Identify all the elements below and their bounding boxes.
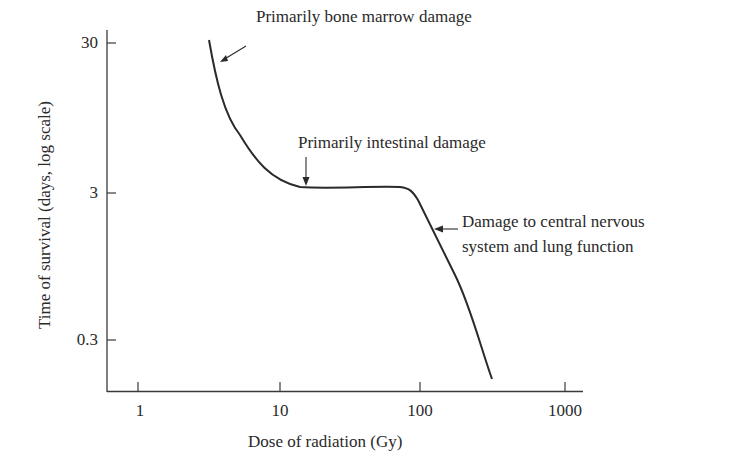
annotation-cns-line1: Damage to central nervous [462,212,645,232]
x-tick-label-10: 10 [250,401,310,421]
y-tick-label-3: 3 [58,183,98,203]
x-tick-label-1: 1 [110,401,170,421]
x-tick-label-1000: 1000 [535,401,595,421]
chart-plot-area [0,0,730,467]
annotation-bone-marrow: Primarily bone marrow damage [256,7,472,27]
survival-curve [209,40,492,379]
survival-vs-dose-chart: 30 3 0.3 1 10 100 1000 Dose of radiation… [0,0,730,467]
x-tick-label-100: 100 [390,401,450,421]
y-tick-label-30: 30 [58,33,98,53]
annotation-intestinal: Primarily intestinal damage [298,133,486,153]
y-tick-label-0.3: 0.3 [58,330,98,350]
y-axis-title: Time of survival (days, log scale) [35,101,55,329]
annotation-cns-line2: system and lung function [462,237,633,257]
arrow-cns [434,226,458,233]
x-axis-title: Dose of radiation (Gy) [248,432,402,452]
arrow-bone-marrow [220,46,246,62]
arrow-intestinal [303,157,310,186]
